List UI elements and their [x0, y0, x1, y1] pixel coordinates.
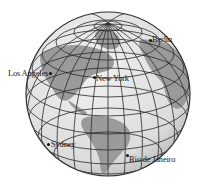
city-label-berlin: Berlin: [152, 35, 172, 44]
city-label-new-york: New York: [96, 74, 129, 83]
city-label-rio-de-janeiro: Rio de Janeiro: [129, 155, 175, 164]
city-label-sydney: Sydney: [51, 140, 75, 149]
los-angeles-marker-icon: [49, 72, 52, 75]
city-label-los-angeles: Los Angeles: [8, 69, 48, 78]
globe-figure: Berlin Los Angeles New York Sydney Rio d…: [0, 0, 199, 187]
sydney-marker-icon: [47, 143, 50, 146]
